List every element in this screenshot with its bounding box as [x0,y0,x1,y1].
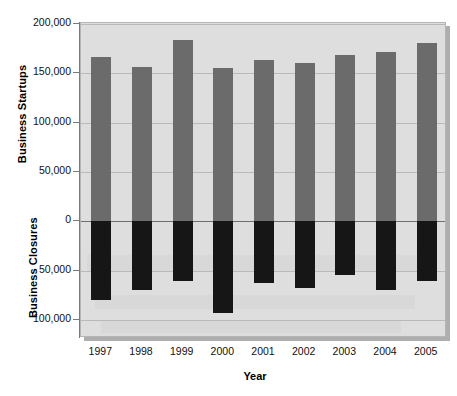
bar-startups-2000 [213,68,233,221]
bar-startups-1998 [132,67,152,221]
x-axis-tick-label-2005: 2005 [406,345,446,357]
y-axis-tick [73,319,80,320]
x-axis-title: Year [70,370,440,382]
bar-startups-2003 [335,55,355,222]
bar-closures-1998 [132,221,152,290]
y-axis-tick [73,220,80,221]
x-axis-tick-label-2000: 2000 [202,345,242,357]
x-axis-tick-label-1999: 1999 [162,345,202,357]
y-axis-tick [73,171,80,172]
y-axis-tick [73,72,80,73]
x-axis-tick-label-2002: 2002 [284,345,324,357]
bar-startups-2001 [254,60,274,222]
bar-startups-2002 [295,63,315,222]
bar-closures-2002 [295,221,315,288]
y-axis-tick-label: 100,000 [9,312,71,324]
x-axis-tick-label-2001: 2001 [243,345,283,357]
bar-closures-2001 [254,221,274,283]
x-axis-tick-label-2004: 2004 [365,345,405,357]
bar-closures-2004 [376,221,396,290]
bar-startups-1997 [91,57,111,222]
y-axis-tick [73,23,80,24]
y-axis-tick [73,270,80,271]
y-axis-tick [73,122,80,123]
bar-closures-2005 [417,221,437,281]
paper-artifact [101,321,401,333]
x-axis-tick-label-2003: 2003 [324,345,364,357]
y-axis-tick-labels: 200,000150,000100,00050,000050,000100,00… [5,0,71,396]
bar-chart: Business Startups Business Closures 200,… [0,0,457,396]
y-axis-tick-label: 50,000 [9,263,71,275]
bar-closures-1999 [173,221,193,281]
x-axis-tick-label-1997: 1997 [80,345,120,357]
plot-area [80,22,446,337]
bar-closures-2003 [335,221,355,274]
y-axis-tick-label: 100,000 [9,115,71,127]
bar-closures-2000 [213,221,233,313]
x-axis-tick-label-1998: 1998 [121,345,161,357]
bar-closures-1997 [91,221,111,300]
bar-startups-2004 [376,52,396,222]
bar-startups-1999 [173,40,193,222]
gridline [81,24,445,25]
y-axis-spine [79,22,80,338]
y-axis-tick-label: 150,000 [9,65,71,77]
gridline [81,320,445,321]
y-axis-tick-label: 0 [9,213,71,225]
bar-startups-2005 [417,43,437,222]
paper-artifact [95,295,415,309]
y-axis-tick-label: 200,000 [9,16,71,28]
y-axis-tick-label: 50,000 [9,164,71,176]
